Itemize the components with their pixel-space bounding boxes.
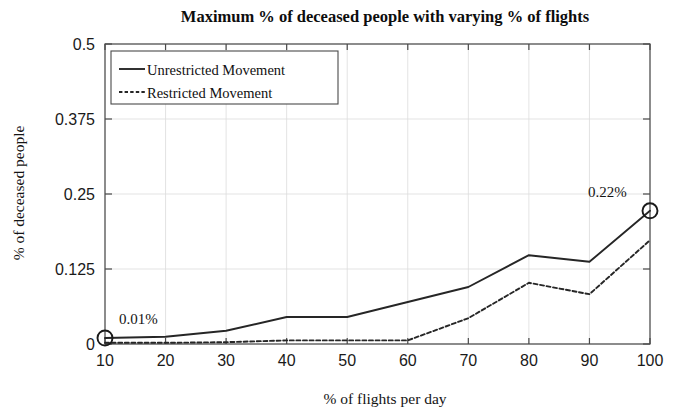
x-tick-label: 80 [520,352,538,369]
x-tick-label: 20 [157,352,175,369]
x-tick-label: 70 [459,352,477,369]
x-tick-label: 60 [399,352,417,369]
y-tick-label: 0.5 [73,36,95,53]
legend-label-1: Restricted Movement [147,85,272,101]
y-tick-label: 0.375 [55,111,95,128]
annotation-label: 0.22% [588,184,627,200]
y-axis-label: % of deceased people [10,126,27,261]
x-tick-label: 40 [278,352,296,369]
x-tick-label: 10 [96,352,114,369]
y-tick-label: 0.25 [64,186,95,203]
y-tick-label: 0.125 [55,261,95,278]
x-tick-label: 30 [217,352,235,369]
x-axis-label: % of flights per day [323,390,446,407]
legend-label-0: Unrestricted Movement [147,62,285,78]
y-tick-label: 0 [86,336,95,353]
x-tick-label: 90 [581,352,599,369]
x-tick-label: 50 [338,352,356,369]
figure-container: Maximum % of deceased people with varyin… [0,0,692,418]
annotation-label: 0.01% [119,311,158,327]
chart-title: Maximum % of deceased people with varyin… [181,7,590,26]
x-tick-label: 100 [637,352,664,369]
chart-legend: Unrestricted MovementRestricted Movement [111,51,338,104]
line-chart: Maximum % of deceased people with varyin… [0,0,692,418]
